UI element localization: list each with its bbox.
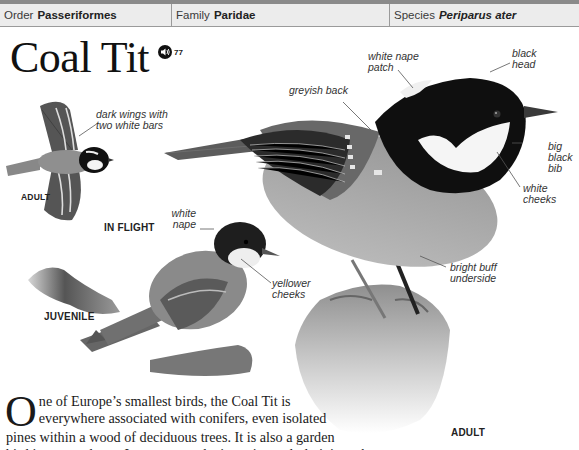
description-line-1: ne of Europe’s smallest birds, the Coal … <box>6 393 306 410</box>
in-flight-caption: IN FLIGHT <box>104 222 155 233</box>
annotation-white-nape: white nape <box>168 208 196 230</box>
annotation-black-head: black head <box>512 48 537 70</box>
illustration-canvas <box>0 0 579 450</box>
annotation-white-cheeks: white cheeks <box>523 183 556 205</box>
annotation-big-black-bib: big black bib <box>548 141 573 174</box>
annotation-white-nape-patch: white nape patch <box>368 51 419 73</box>
annotation-bright-buff-underside: bright buff underside <box>450 262 497 284</box>
black-head-leader-line <box>490 63 510 72</box>
description-line-2: everywhere associated with conifers, eve… <box>6 410 306 427</box>
annotation-greyish-back: greyish back <box>289 85 348 96</box>
annotation-dark-wings: dark wings with two white bars <box>96 109 168 131</box>
description-line-4: bird in many places. In autumn and winte… <box>6 446 306 450</box>
adult-caption: ADULT <box>451 427 485 438</box>
species-description: O ne of Europe’s smallest birds, the Coa… <box>6 393 306 450</box>
juvenile-bird-illustration <box>28 222 280 376</box>
juvenile-caption: JUVENILE <box>44 311 95 322</box>
dropcap: O <box>5 395 37 429</box>
description-line-3: pines within a wood of deciduous trees. … <box>6 429 306 446</box>
annotation-yellower-cheeks: yellower cheeks <box>272 278 311 300</box>
flight-adult-caption: ADULT <box>21 192 50 202</box>
